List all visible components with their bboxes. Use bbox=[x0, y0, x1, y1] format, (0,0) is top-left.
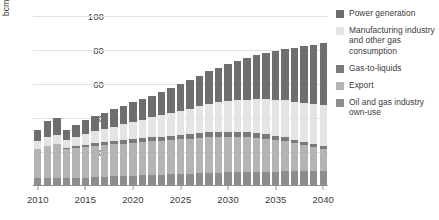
legend-item-label: Export bbox=[349, 80, 374, 90]
legend-item[interactable]: Gas-to-liquids bbox=[336, 63, 436, 73]
bar-segment bbox=[63, 149, 70, 178]
bar-segment bbox=[224, 64, 231, 101]
bar-segment bbox=[291, 102, 298, 140]
bar-segment bbox=[320, 171, 327, 186]
legend-swatch-icon bbox=[336, 99, 344, 107]
x-axis-tick-label: 2040 bbox=[312, 194, 334, 205]
x-axis-tick-label: 2035 bbox=[265, 194, 287, 205]
bar-stack bbox=[234, 61, 241, 186]
bar-segment bbox=[320, 149, 327, 171]
bar-stack bbox=[120, 106, 127, 186]
bar-stack bbox=[253, 55, 260, 186]
x-axis-tick-mark bbox=[132, 186, 133, 190]
bar-segment bbox=[34, 141, 41, 149]
legend-item[interactable]: Manufacturing industry and other gas con… bbox=[336, 25, 436, 56]
bar-segment bbox=[120, 124, 127, 140]
bar-segment bbox=[310, 147, 317, 171]
bar-segment bbox=[158, 115, 165, 136]
bar-stack bbox=[300, 46, 307, 186]
bar-stack bbox=[167, 88, 174, 186]
bar-segment bbox=[158, 92, 165, 115]
bar-segment bbox=[300, 46, 307, 102]
bar-segment bbox=[53, 135, 60, 144]
legend-item[interactable]: Export bbox=[336, 80, 436, 90]
bar-segment bbox=[262, 172, 269, 186]
bar-segment bbox=[101, 145, 108, 177]
bar-stack bbox=[34, 130, 41, 186]
bar-segment bbox=[234, 100, 241, 132]
bar-segment bbox=[177, 111, 184, 135]
bar-segment bbox=[224, 101, 231, 132]
legend-item[interactable]: Power generation bbox=[336, 8, 436, 18]
bar-segment bbox=[253, 138, 260, 172]
legend-swatch-icon bbox=[336, 82, 344, 90]
bar-segment bbox=[72, 137, 79, 147]
bar-segment bbox=[310, 171, 317, 186]
bar-segment bbox=[120, 144, 127, 177]
bar-segment bbox=[205, 137, 212, 173]
bar-stack bbox=[320, 43, 327, 186]
bar-stack bbox=[158, 92, 165, 186]
legend-item[interactable]: Oil and gas industry own-use bbox=[336, 97, 436, 117]
bar-segment bbox=[177, 84, 184, 111]
bar-stack bbox=[262, 53, 269, 186]
bar-segment bbox=[148, 117, 155, 137]
bar-segment bbox=[120, 106, 127, 124]
x-axis-tick-mark bbox=[228, 186, 229, 190]
bar-segment bbox=[243, 137, 250, 172]
bar-segment bbox=[310, 104, 317, 144]
x-axis-tick-label: 2020 bbox=[122, 194, 144, 205]
bar-stack bbox=[110, 109, 117, 186]
bar-segment bbox=[234, 137, 241, 172]
bar-segment bbox=[243, 58, 250, 99]
legend-swatch-icon bbox=[336, 10, 344, 18]
bar-stack bbox=[177, 84, 184, 186]
bar-segment bbox=[82, 120, 89, 135]
bar-stack bbox=[243, 58, 250, 186]
bar-stack bbox=[310, 45, 317, 186]
bar-segment bbox=[53, 118, 60, 135]
bar-segment bbox=[215, 173, 222, 186]
bar-stack bbox=[196, 76, 203, 186]
bar-segment bbox=[215, 137, 222, 173]
plot-area: 2010201520202025203020352040 bbox=[33, 16, 328, 186]
bar-segment bbox=[300, 171, 307, 186]
bar-segment bbox=[129, 143, 136, 176]
bar-segment bbox=[300, 103, 307, 142]
bar-segment bbox=[110, 109, 117, 126]
bar-stack bbox=[101, 113, 108, 186]
bar-segment bbox=[253, 55, 260, 99]
bar-segment bbox=[186, 80, 193, 109]
x-axis-tick-label: 2030 bbox=[217, 194, 239, 205]
bar-segment bbox=[234, 61, 241, 100]
x-axis-tick-mark bbox=[37, 186, 38, 190]
bar-segment bbox=[320, 105, 327, 146]
bar-segment bbox=[110, 127, 117, 142]
bar-stack bbox=[139, 99, 146, 186]
bar-segment bbox=[91, 131, 98, 143]
bar-stack bbox=[82, 120, 89, 186]
bar-segment bbox=[34, 149, 41, 179]
bar-segment bbox=[310, 45, 317, 104]
legend-swatch-icon bbox=[336, 27, 344, 35]
bar-stack bbox=[63, 130, 70, 186]
bar-stack bbox=[44, 121, 51, 186]
chart-legend: Power generationManufacturing industry a… bbox=[336, 8, 436, 125]
bar-segment bbox=[224, 137, 231, 173]
bar-segment bbox=[44, 137, 51, 146]
bar-segment bbox=[34, 130, 41, 141]
bar-segment bbox=[82, 134, 89, 145]
bar-segment bbox=[281, 100, 288, 137]
bar-segment bbox=[44, 121, 51, 137]
bar-segment bbox=[101, 113, 108, 129]
bar-stack bbox=[205, 71, 212, 186]
bar-stack bbox=[72, 125, 79, 186]
bar-segment bbox=[91, 146, 98, 177]
bar-segment bbox=[272, 140, 279, 172]
bar-segment bbox=[82, 147, 89, 178]
bar-segment bbox=[272, 51, 279, 100]
bar-segment bbox=[167, 113, 174, 136]
bar-segment bbox=[215, 68, 222, 103]
bar-segment bbox=[110, 144, 117, 176]
bar-segment bbox=[215, 102, 222, 132]
